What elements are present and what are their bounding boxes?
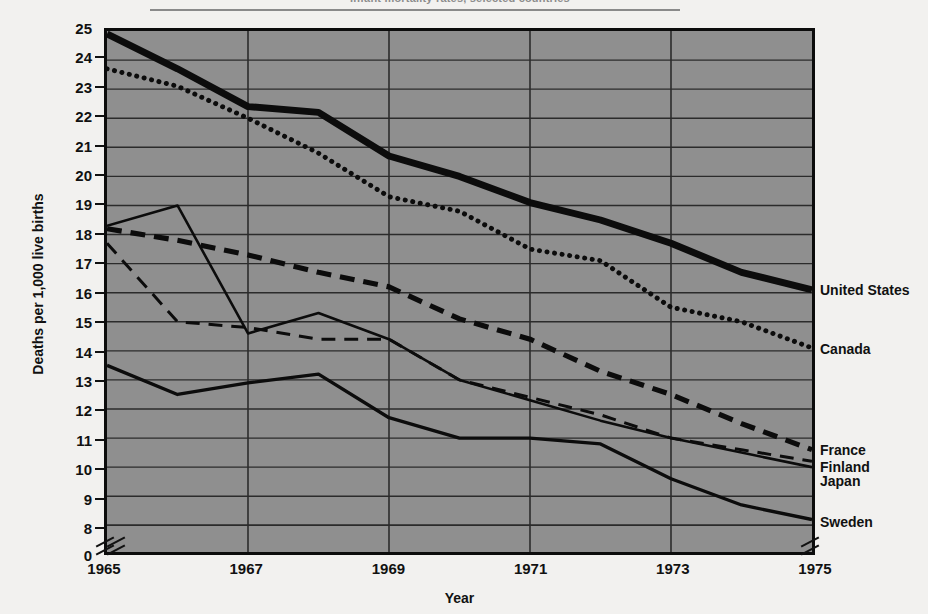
plot-svg <box>107 31 812 552</box>
x-tick-label: 1965 <box>59 560 149 577</box>
x-axis-break-icon-right <box>800 538 820 556</box>
x-tick-label: 1967 <box>201 560 291 577</box>
y-tick-label: 18 <box>32 226 92 241</box>
x-tick-label: 1969 <box>343 560 433 577</box>
y-tick-label: 11 <box>32 432 92 447</box>
series-label-france: France <box>820 442 866 458</box>
y-tick-label: 14 <box>32 344 92 359</box>
series-label-sweden: Sweden <box>820 514 873 530</box>
y-tick-label: 16 <box>32 285 92 300</box>
y-tick-mark <box>95 468 104 470</box>
x-axis-break-icon-left <box>106 538 126 556</box>
page-title: Infant mortality rates, selected countri… <box>104 0 816 4</box>
y-tick-label: 10 <box>32 462 92 477</box>
y-tick-mark <box>95 262 104 264</box>
plot-area <box>104 28 815 555</box>
y-tick-mark <box>95 409 104 411</box>
y-tick-label: 25 <box>32 21 92 36</box>
y-tick-label: 23 <box>32 79 92 94</box>
y-tick-mark <box>95 321 104 323</box>
y-tick-label: 19 <box>32 197 92 212</box>
y-tick-mark <box>95 351 104 353</box>
series-label-japan: Japan <box>820 473 860 489</box>
y-tick-mark <box>95 233 104 235</box>
y-tick-label: 17 <box>32 256 92 271</box>
y-tick-mark <box>95 174 104 176</box>
y-tick-mark <box>95 498 104 500</box>
y-tick-mark <box>95 145 104 147</box>
y-tick-label: 22 <box>32 109 92 124</box>
x-tick-label: 1971 <box>486 560 576 577</box>
y-tick-mark <box>95 527 104 529</box>
y-tick-label: 9 <box>32 491 92 506</box>
y-tick-mark <box>95 439 104 441</box>
series-line-united-states <box>107 34 812 290</box>
series-line-finland <box>107 243 812 461</box>
series-label-canada: Canada <box>820 341 871 357</box>
series-label-united-states: United States <box>820 282 909 298</box>
title-divider <box>150 9 680 11</box>
y-tick-label: 15 <box>32 315 92 330</box>
y-tick-mark <box>95 86 104 88</box>
series-line-japan <box>107 205 812 467</box>
series-line-canada <box>107 69 812 348</box>
y-tick-mark <box>95 380 104 382</box>
y-tick-mark <box>95 56 104 58</box>
y-tick-mark <box>95 292 104 294</box>
series-line-france <box>107 229 812 450</box>
x-axis-label: Year <box>104 590 815 606</box>
y-tick-label: 8 <box>32 521 92 536</box>
x-tick-label: 1973 <box>628 560 718 577</box>
y-tick-label: 13 <box>32 373 92 388</box>
x-tick-label: 1975 <box>770 560 860 577</box>
y-tick-label: 20 <box>32 168 92 183</box>
infant-mortality-chart: Infant mortality rates, selected countri… <box>0 0 928 614</box>
y-tick-label: 12 <box>32 403 92 418</box>
y-tick-mark <box>95 203 104 205</box>
y-tick-label: 24 <box>32 50 92 65</box>
y-tick-label: 21 <box>32 138 92 153</box>
y-tick-mark <box>95 115 104 117</box>
